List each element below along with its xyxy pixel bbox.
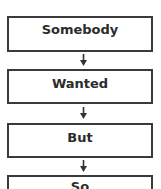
- step-label: Wanted: [52, 76, 108, 91]
- step-so-box: So: [7, 175, 153, 189]
- step-wanted-box: Wanted: [7, 69, 153, 104]
- arrow-down-icon: [79, 160, 88, 172]
- step-label: But: [67, 130, 92, 145]
- step-label: Somebody: [42, 22, 119, 37]
- arrow-down-icon: [79, 54, 88, 66]
- step-label: So: [71, 179, 89, 189]
- step-but-box: But: [7, 123, 153, 158]
- step-somebody-box: Somebody: [7, 16, 153, 52]
- arrow-down-icon: [79, 107, 88, 119]
